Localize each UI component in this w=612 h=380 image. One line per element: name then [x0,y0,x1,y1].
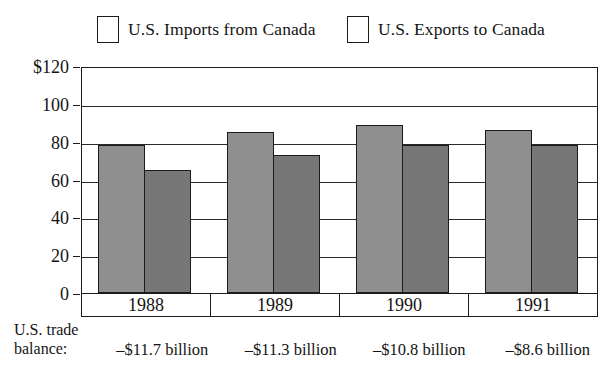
trade-balance-value: –$8.6 billion [484,340,612,362]
y-axis-tick-mark [73,143,80,144]
y-axis-tick-mark [73,218,80,219]
bars-layer [82,68,597,293]
bar-1989-imports [227,132,274,293]
legend-swatch-imports-icon [97,16,119,43]
bar-1990-exports [402,145,449,293]
x-axis-year-label: 1988 [82,294,211,316]
legend-label-exports: U.S. Exports to Canada [378,16,545,43]
legend-item-exports: U.S. Exports to Canada [347,16,545,43]
y-axis-tick-label: 20 [51,247,69,265]
y-axis-tick-label: 100 [42,96,69,114]
y-axis-tick-label: 0 [60,285,69,303]
y-axis-tick-label: 80 [51,134,69,152]
trade-balance-values: –$11.7 billion–$11.3 billion–$10.8 billi… [98,340,612,362]
trade-balance-label-line1: U.S. trade [14,320,78,339]
bar-1988-imports [98,145,145,293]
trade-bar-chart: U.S. Imports from Canada U.S. Exports to… [0,0,612,380]
x-axis-year-label: 1990 [340,294,469,316]
x-axis-year-label: 1991 [469,294,597,316]
legend-item-imports: U.S. Imports from Canada [97,16,316,43]
bar-1988-exports [144,170,191,293]
y-axis-tick-label: 60 [51,172,69,190]
legend-swatch-exports-icon [347,16,369,43]
y-axis-tick-label: $120 [33,58,69,76]
y-axis-tick-mark [73,181,80,182]
legend-label-imports: U.S. Imports from Canada [128,16,316,43]
bar-1990-imports [356,125,403,293]
bar-1991-exports [531,145,578,293]
trade-balance-value: –$11.7 billion [98,340,227,362]
plot-area [81,67,598,294]
bar-1989-exports [273,155,320,293]
x-axis-year-row: 1988198919901991 [81,294,598,317]
trade-balance-label-line2: balance: [14,339,78,358]
y-axis-tick-label: 40 [51,209,69,227]
y-axis-tick-mark [73,105,80,106]
trade-balance-value: –$10.8 billion [355,340,484,362]
x-axis-year-label: 1989 [211,294,340,316]
chart-legend: U.S. Imports from Canada U.S. Exports to… [0,16,612,50]
bar-1991-imports [485,130,532,293]
trade-balance-value: –$11.3 billion [227,340,356,362]
trade-balance-label: U.S. trade balance: [14,320,78,358]
y-axis-tick-mark [73,256,80,257]
y-axis-tick-mark [73,294,80,295]
y-axis-tick-mark [73,67,80,68]
